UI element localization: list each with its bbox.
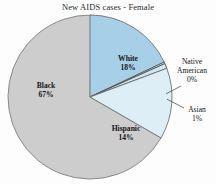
slice-label-native-american-line1: Native [182,57,202,66]
slice-label-native-american-pct: 0% [187,75,197,84]
slice-label-white: White 18% [106,54,150,73]
slice-label-black-name: Black [37,81,56,90]
slice-label-native-american-line2: American [177,66,207,75]
pie-chart-screenshot: New AIDS cases - Female White 18% Black … [0,0,216,184]
slice-label-white-name: White [118,54,138,63]
slice-label-black: Black 67% [24,81,68,100]
slice-label-asian-pct: 1% [192,114,202,123]
slice-label-asian-name: Asian [188,105,206,114]
slice-label-native-american: Native American 0% [168,57,216,84]
slice-label-black-pct: 67% [24,90,68,99]
slice-label-hispanic-name: Hispanic [112,124,141,133]
slice-label-hispanic: Hispanic 14% [101,124,151,143]
slice-label-asian: Asian 1% [178,105,216,123]
slice-label-hispanic-pct: 14% [101,133,151,142]
slice-label-white-pct: 18% [106,63,150,72]
